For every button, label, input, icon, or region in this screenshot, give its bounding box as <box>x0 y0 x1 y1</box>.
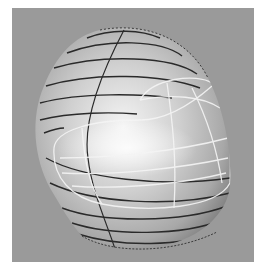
render-viewport <box>12 8 254 262</box>
helmet-render <box>12 8 254 262</box>
